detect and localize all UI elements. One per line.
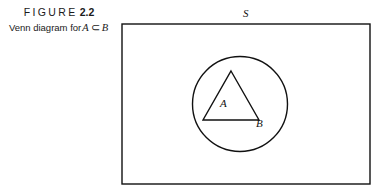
label-set-a: A xyxy=(220,98,227,109)
figure-page: FIGURE2.2 Venn diagram forA⊂B S A B xyxy=(0,0,390,196)
venn-diagram xyxy=(0,0,390,196)
label-universal-set: S xyxy=(243,8,249,19)
label-set-b: B xyxy=(256,118,263,129)
